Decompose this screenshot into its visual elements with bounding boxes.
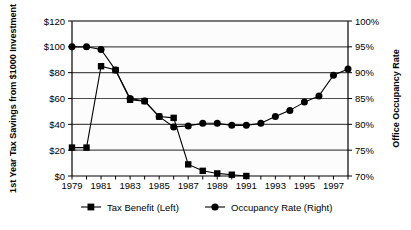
data-point-marker	[214, 120, 221, 127]
data-point-marker	[243, 122, 250, 129]
y-left-tick-label: $120	[44, 16, 65, 27]
data-point-marker	[156, 113, 163, 120]
data-point-marker	[98, 63, 104, 69]
data-point-marker	[315, 92, 322, 99]
chart-figure: 1979198119831985198719891991199319951997…	[0, 0, 411, 230]
chart-container: 1979198119831985198719891991199319951997…	[0, 0, 411, 230]
x-tick-label: 1997	[323, 180, 344, 191]
data-point-marker	[301, 99, 308, 106]
y-left-tick-label: $60	[49, 93, 65, 104]
x-tick-label: 1985	[149, 180, 170, 191]
y-axis-left-title: 1st Year Tax Savings from $1000 Investme…	[8, 4, 18, 193]
legend-square-marker-icon	[88, 204, 95, 211]
data-point-marker	[214, 170, 220, 176]
y-left-tick-label: $80	[49, 67, 65, 78]
data-point-marker	[330, 72, 337, 79]
legend-label: Tax Benefit (Left)	[107, 202, 179, 213]
data-point-marker	[200, 168, 206, 174]
legend-label: Occupancy Rate (Right)	[231, 202, 332, 213]
data-point-marker	[98, 46, 105, 53]
data-point-marker	[199, 120, 206, 127]
data-point-marker	[286, 107, 293, 114]
data-point-marker	[83, 43, 90, 50]
data-point-marker	[229, 172, 235, 178]
y-right-tick-label: 85%	[355, 93, 375, 104]
data-point-marker	[272, 113, 279, 120]
data-point-marker	[69, 43, 76, 50]
data-point-marker	[243, 173, 249, 179]
x-tick-label: 1995	[294, 180, 315, 191]
y-axis-right-title: Office Occupancy Rate	[391, 49, 401, 148]
data-point-marker	[185, 122, 192, 129]
y-right-tick-label: 70%	[355, 171, 375, 182]
data-point-marker	[127, 95, 134, 102]
data-point-marker	[141, 98, 148, 105]
plot-area	[68, 21, 352, 180]
y-left-tick-label: $20	[49, 145, 65, 156]
y-right-tick-label: 80%	[355, 119, 375, 130]
x-tick-label: 1983	[120, 180, 141, 191]
y-right-tick-label: 75%	[355, 145, 375, 156]
x-tick-label: 1989	[207, 180, 228, 191]
data-point-marker	[170, 123, 177, 130]
data-point-marker	[83, 144, 89, 150]
y-right-tick-label: 95%	[355, 41, 375, 52]
data-point-marker	[69, 144, 75, 150]
data-point-marker	[170, 115, 176, 121]
data-point-marker	[185, 161, 191, 167]
y-right-tick-label: 90%	[355, 67, 375, 78]
x-tick-label: 1981	[90, 180, 111, 191]
y-right-tick-label: 100%	[355, 16, 380, 27]
legend-circle-marker-icon	[211, 203, 218, 210]
y-left-tick-label: $100	[44, 41, 65, 52]
x-tick-label: 1991	[236, 180, 257, 191]
data-point-marker	[257, 120, 264, 127]
y-left-tick-label: $0	[54, 171, 65, 182]
x-tick-label: 1979	[61, 180, 82, 191]
data-point-marker	[228, 122, 235, 129]
data-point-marker	[345, 66, 352, 73]
data-point-marker	[112, 67, 119, 74]
y-left-tick-label: $40	[49, 119, 65, 130]
x-tick-label: 1987	[178, 180, 199, 191]
x-tick-label: 1993	[265, 180, 286, 191]
